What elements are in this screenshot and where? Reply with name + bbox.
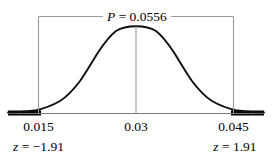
normal-distribution-figure: P = 0.0556 0.015 0.03 0.045 z = −1.91 z … <box>0 0 272 162</box>
z-label-right: z = 1.91 <box>205 140 265 154</box>
x-tick-label-center: 0.03 <box>106 120 166 134</box>
x-tick-label-right: 0.045 <box>204 120 264 134</box>
x-tick-label-left: 0.015 <box>9 120 69 134</box>
p-value-label: P = 0.0556 <box>103 10 171 24</box>
p-value-symbol: P <box>107 9 115 24</box>
distribution-plot <box>0 0 272 162</box>
z-label-left: z = −1.91 <box>9 140 69 154</box>
p-value-equation: = 0.0556 <box>115 9 167 24</box>
z-equation-left: = −1.91 <box>18 139 64 154</box>
z-equation-right: = 1.91 <box>219 139 257 154</box>
